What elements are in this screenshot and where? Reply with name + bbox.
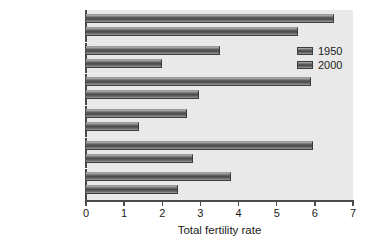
legend-label-1950: 1950 bbox=[318, 46, 342, 57]
x-tick-mark bbox=[200, 201, 202, 206]
legend-swatch-icon-2000 bbox=[297, 61, 313, 69]
category-separator bbox=[85, 137, 89, 138]
x-axis-title: Total fertility rate bbox=[86, 224, 353, 236]
fertility-rate-bar-chart: AfricaNorth AmericaLatin AmericaEuropeAs… bbox=[0, 0, 375, 248]
bar-africa-2000 bbox=[86, 27, 298, 36]
category-separator bbox=[85, 105, 89, 106]
x-tick-label-4: 4 bbox=[229, 207, 249, 220]
x-tick-label-5: 5 bbox=[267, 207, 287, 220]
legend-swatch-icon-1950 bbox=[297, 47, 313, 55]
x-tick-mark bbox=[276, 201, 278, 206]
bar-group bbox=[0, 137, 375, 169]
legend-label-2000: 2000 bbox=[318, 60, 342, 71]
x-tick-mark bbox=[123, 201, 125, 206]
bar-asia-1950 bbox=[86, 141, 313, 150]
bar-group bbox=[0, 105, 375, 137]
x-tick-label-6: 6 bbox=[305, 207, 325, 220]
category-separator bbox=[85, 168, 89, 169]
bar-europe-2000 bbox=[86, 122, 139, 131]
x-tick-mark bbox=[162, 201, 164, 206]
bar-group bbox=[0, 168, 375, 200]
bar-africa-1950 bbox=[86, 14, 334, 23]
bar-north-america-1950 bbox=[86, 46, 220, 55]
bar-asia-2000 bbox=[86, 154, 193, 163]
bar-north-america-2000 bbox=[86, 59, 162, 68]
category-separator bbox=[85, 73, 89, 74]
legend-item-2000: 2000 bbox=[297, 59, 355, 71]
bar-group bbox=[0, 73, 375, 105]
x-tick-mark bbox=[314, 201, 316, 206]
bar-group bbox=[0, 10, 375, 42]
x-tick-label-3: 3 bbox=[190, 207, 210, 220]
x-tick-mark bbox=[238, 201, 240, 206]
bar-europe-1950 bbox=[86, 109, 187, 118]
x-tick-label-2: 2 bbox=[152, 207, 172, 220]
x-tick-label-7: 7 bbox=[343, 207, 363, 220]
x-tick-mark bbox=[352, 201, 354, 206]
bar-latin-america-1950 bbox=[86, 77, 311, 86]
bar-latin-america-2000 bbox=[86, 90, 199, 99]
legend-item-1950: 1950 bbox=[297, 45, 355, 57]
legend: 1950 2000 bbox=[297, 45, 355, 73]
bar-oceania-2000 bbox=[86, 185, 178, 194]
category-separator bbox=[85, 42, 89, 43]
x-tick-mark bbox=[85, 201, 87, 206]
bar-oceania-1950 bbox=[86, 172, 231, 181]
x-tick-label-1: 1 bbox=[114, 207, 134, 220]
x-tick-label-0: 0 bbox=[76, 207, 96, 220]
